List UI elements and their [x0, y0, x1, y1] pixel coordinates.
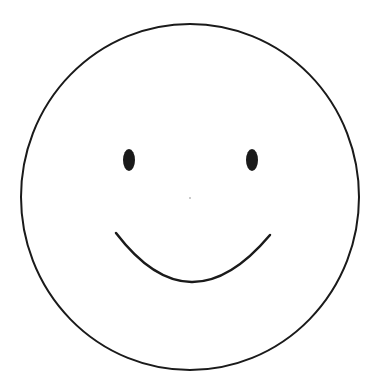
smile-mouth	[116, 233, 270, 282]
smiley-svg	[0, 0, 376, 384]
face-outline	[21, 24, 359, 370]
right-eye	[246, 149, 258, 171]
smiley-drawing: Smiley face line drawing	[0, 0, 376, 384]
left-eye	[123, 149, 135, 171]
nose-dot	[189, 197, 191, 199]
